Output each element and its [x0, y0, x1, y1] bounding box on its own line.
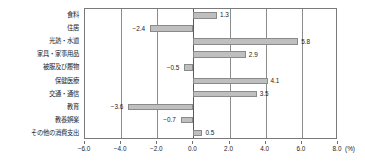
bar	[128, 104, 193, 111]
category-label: 教育	[67, 100, 79, 113]
axis-tick	[192, 141, 193, 144]
category-label: 保健医療	[55, 74, 79, 87]
axis-tick-label: 6.0	[296, 145, 305, 152]
bar-row: 3.5	[85, 88, 336, 101]
axis-tick-label: 8.0	[333, 145, 342, 152]
bar-row: 4.1	[85, 75, 336, 88]
category-label: 交通・通信	[49, 87, 79, 100]
bar-row: 1.3	[85, 9, 336, 22]
bar	[193, 91, 256, 98]
bar-value-label: 0.5	[205, 126, 214, 139]
bar-row: 5.8	[85, 35, 336, 48]
axis-tick	[337, 141, 338, 144]
axis-tick-label: −6.0	[78, 145, 91, 152]
bar-row: 2.9	[85, 48, 336, 61]
axis-tick-label: 4.0	[260, 145, 269, 152]
value-axis: −6.0−4.0−2.00.02.04.06.08.0(%)	[84, 141, 337, 163]
bar-row: −0.7	[85, 114, 336, 127]
bar	[181, 117, 194, 124]
bar-value-label: −3.6	[111, 100, 124, 113]
axis-tick	[120, 141, 121, 144]
bar-value-label: 3.5	[260, 87, 269, 100]
bar-value-label: −0.5	[167, 61, 180, 74]
axis-tick-label: 0.0	[188, 145, 197, 152]
bar	[193, 12, 216, 19]
category-label: その他の消費支出	[31, 126, 79, 139]
axis-tick-label: −2.0	[150, 145, 163, 152]
bar-value-label: 4.1	[271, 74, 280, 87]
category-label: 食料	[67, 8, 79, 21]
bar	[193, 130, 202, 137]
bar	[193, 38, 298, 45]
category-axis: 食料住居光熱・水道家具・家事用品被服及び履物保健医療交通・通信教育教養娯楽その他…	[0, 8, 82, 139]
plot-area: 1.3−2.45.82.9−0.54.13.5−3.6−0.70.5	[84, 8, 337, 139]
axis-tick	[301, 141, 302, 144]
bar-row: −2.4	[85, 22, 336, 35]
axis-unit-label: (%)	[345, 145, 355, 152]
axis-tick-label: 2.0	[224, 145, 233, 152]
bar-row: 0.5	[85, 127, 336, 140]
category-label: 被服及び履物	[43, 60, 79, 73]
bar	[184, 64, 193, 71]
axis-tick	[229, 141, 230, 144]
category-label: 家具・家事用品	[37, 47, 79, 60]
category-label: 光熱・水道	[49, 34, 79, 47]
axis-tick-label: −4.0	[114, 145, 127, 152]
bar-row: −3.6	[85, 101, 336, 114]
bar-value-label: 1.3	[220, 8, 229, 21]
axis-tick	[84, 141, 85, 144]
bar-value-label: 5.8	[301, 35, 310, 48]
axis-tick	[265, 141, 266, 144]
bar-chart: 食料住居光熱・水道家具・家事用品被服及び履物保健医療交通・通信教育教養娯楽その他…	[0, 0, 365, 168]
bar	[193, 51, 245, 58]
category-label: 教養娯楽	[55, 113, 79, 126]
bar-value-label: −2.4	[132, 22, 145, 35]
bar	[193, 78, 267, 85]
axis-tick	[156, 141, 157, 144]
category-label: 住居	[67, 21, 79, 34]
bar-row: −0.5	[85, 61, 336, 74]
bar	[150, 25, 193, 32]
bar-value-label: 2.9	[249, 48, 258, 61]
bar-value-label: −0.7	[163, 113, 176, 126]
